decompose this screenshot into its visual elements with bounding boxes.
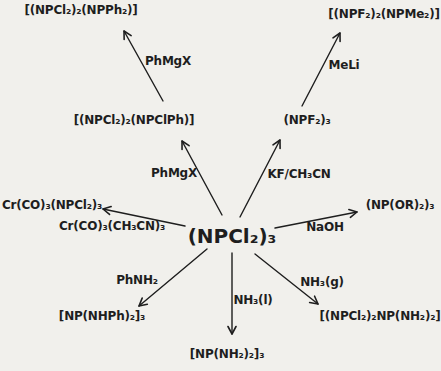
reagent-label-naoh: NaOH xyxy=(306,221,344,234)
reagent-label-nh3-g: NH₃(g) xyxy=(300,276,344,289)
formula-npcl2-2-np-nh2-2: [(NPCl₂)₂NP(NH₂)₂] xyxy=(319,310,440,323)
formula-np-nhph-2-3: [NP(NHPh)₂]₃ xyxy=(59,310,145,323)
reagent-label-phmgx-lower: PhMgX xyxy=(151,167,197,180)
formula-layer: (NPCl₂)₃[(NPCl₂)₂(NPPh₂)][(NPF₂)₂(NPMe₂)… xyxy=(0,0,441,371)
reagent-label-kf-ch3cn: KF/CH₃CN xyxy=(267,168,330,181)
formula-npcl2-2-npph2: [(NPCl₂)₂(NPPh₂)] xyxy=(24,4,137,17)
formula-npf2-2-npme2: [(NPF₂)₂(NPMe₂)] xyxy=(328,8,439,21)
reagent-label-phmgx-upper: PhMgX xyxy=(145,55,191,68)
reaction-scheme-figure: (NPCl₂)₃[(NPCl₂)₂(NPPh₂)][(NPF₂)₂(NPMe₂)… xyxy=(0,0,441,371)
formula-npf2-3: (NPF₂)₃ xyxy=(283,114,330,127)
reagent-label-meli: MeLi xyxy=(328,59,359,72)
formula-np-nh2-2-3: [NP(NH₂)₂]₃ xyxy=(190,348,264,361)
reagent-label-cr-co-3-ch3cn-3: Cr(CO)₃(CH₃CN)₃ xyxy=(59,220,165,233)
reagent-label-nh3-l: NH₃(l) xyxy=(233,294,272,307)
formula-npcl2-2-npclph: [(NPCl₂)₂(NPClPh)] xyxy=(74,114,195,127)
reagent-label-phnh2: PhNH₂ xyxy=(116,274,158,287)
formula-cr-co-3-npcl2-3: Cr(CO)₃(NPCl₂)₃ xyxy=(2,199,102,212)
formula-np-or-2-3: (NP(OR)₂)₃ xyxy=(366,199,435,212)
formula-npcl2-3: (NPCl₂)₃ xyxy=(188,225,277,247)
